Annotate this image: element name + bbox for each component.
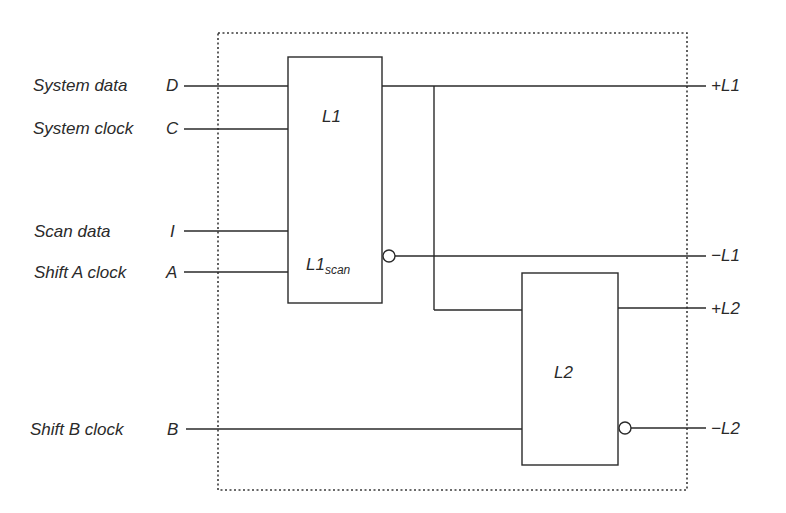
- pin-i: I: [170, 223, 175, 240]
- input-label-system-data: System data: [33, 77, 128, 94]
- pin-d: D: [166, 77, 178, 94]
- input-label-shift-b-clock: Shift B clock: [30, 421, 124, 438]
- input-label-scan-data: Scan data: [34, 223, 111, 240]
- l1-scan-main: L1: [306, 255, 325, 274]
- l1-scan-label: L1scan: [306, 256, 350, 276]
- pin-b: B: [167, 421, 178, 438]
- output-plus-l1: +L1: [711, 77, 740, 94]
- output-minus-l2: −L2: [711, 420, 740, 437]
- l1-inversion-bubble: [383, 250, 395, 262]
- l1-scan-subscript: scan: [325, 263, 350, 277]
- l2-label: L2: [554, 364, 573, 381]
- l2-inversion-bubble: [619, 422, 631, 434]
- pin-a: A: [166, 264, 177, 281]
- input-label-system-clock: System clock: [33, 120, 133, 137]
- pin-c: C: [166, 120, 178, 137]
- output-minus-l1: −L1: [711, 247, 740, 264]
- input-label-shift-a-clock: Shift A clock: [34, 264, 126, 281]
- l1-label: L1: [322, 108, 341, 125]
- output-plus-l2: +L2: [711, 300, 740, 317]
